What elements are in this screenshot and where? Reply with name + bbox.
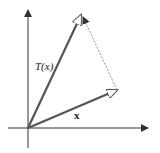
vector-diagram: T(x) x <box>0 0 160 153</box>
vector-x <box>28 90 117 128</box>
difference-dashed-line <box>83 17 117 90</box>
label-x: x <box>74 109 80 121</box>
label-t-of-x: T(x) <box>35 60 54 73</box>
